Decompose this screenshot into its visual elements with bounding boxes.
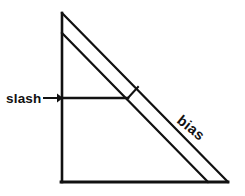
bias-label: bias (174, 112, 208, 144)
fabric-bias-diagram: slash bias (0, 0, 245, 196)
right-angle-tick-marker (127, 87, 138, 99)
slash-label: slash (6, 91, 42, 106)
inner-diagonal-bias-line (62, 33, 208, 182)
diagram-canvas: slash bias (0, 0, 245, 196)
